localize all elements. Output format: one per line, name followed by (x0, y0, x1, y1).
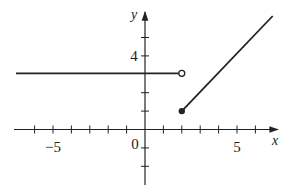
x-tick-label-5: 5 (233, 139, 241, 155)
open-endpoint-marker (179, 70, 185, 76)
y-tick-label-4: 4 (130, 48, 138, 64)
closed-endpoint-marker (179, 108, 185, 114)
x-tick-label-neg5: −5 (45, 139, 61, 155)
y-axis-label: y (129, 7, 138, 22)
origin-label: 0 (131, 136, 139, 152)
x-axis-label: x (271, 133, 279, 148)
piecewise-function-graph: −5 0 5 4 x y (0, 0, 285, 185)
piece-linear-line (182, 16, 273, 111)
